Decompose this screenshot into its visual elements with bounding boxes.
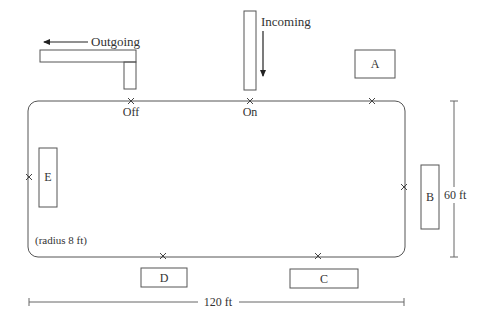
station-b: B	[421, 165, 439, 229]
svg-text:C: C	[320, 272, 328, 286]
height-dimension	[450, 101, 458, 257]
on-label: On	[243, 105, 258, 119]
station-c: C	[290, 269, 358, 288]
x-marker-e-icon	[26, 174, 32, 180]
outgoing-conveyor	[40, 50, 136, 89]
station-d: D	[141, 268, 187, 287]
svg-text:D: D	[160, 271, 169, 285]
station-a: A	[355, 50, 395, 78]
x-marker-c-icon	[315, 253, 321, 259]
track-diagram: Outgoing Incoming Off On A B C D E (radi…	[0, 0, 488, 320]
radius-note: (radius 8 ft)	[35, 234, 87, 247]
outgoing-label: Outgoing	[91, 34, 141, 49]
incoming-conveyor	[244, 11, 256, 90]
width-label: 120 ft	[204, 295, 233, 309]
off-label: Off	[123, 105, 139, 119]
x-marker-b-icon	[401, 184, 407, 190]
incoming-label: Incoming	[261, 14, 311, 29]
svg-text:A: A	[371, 57, 380, 71]
svg-text:B: B	[426, 190, 434, 204]
svg-text:E: E	[44, 170, 51, 184]
x-marker-d-icon	[160, 253, 166, 259]
height-label: 60 ft	[444, 188, 467, 202]
station-e: E	[39, 148, 57, 207]
